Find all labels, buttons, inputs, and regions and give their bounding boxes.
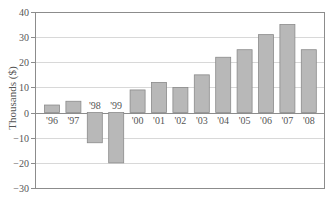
- chart-canvas: 403020100−10−20−30'96'97'98'99'00'01'02'…: [0, 0, 329, 198]
- x-category-label: '98: [89, 100, 101, 111]
- y-tick-label: −30: [13, 183, 29, 194]
- bar: [152, 82, 167, 112]
- x-category-label: '03: [196, 115, 208, 126]
- x-category-label: '07: [281, 115, 293, 126]
- y-tick-label: 0: [24, 108, 29, 119]
- x-category-label: '00: [132, 115, 144, 126]
- x-category-label: '97: [67, 115, 79, 126]
- x-category-label: '04: [217, 115, 229, 126]
- bar: [237, 50, 252, 113]
- bar: [130, 90, 145, 113]
- y-tick-label: 10: [19, 82, 29, 93]
- x-category-label: '99: [110, 100, 122, 111]
- y-tick-label: 40: [19, 7, 29, 18]
- bar: [45, 105, 60, 113]
- x-category-label: '02: [174, 115, 186, 126]
- x-category-label: '05: [239, 115, 251, 126]
- x-category-label: '06: [260, 115, 272, 126]
- bar: [66, 101, 81, 112]
- bar: [301, 50, 316, 113]
- x-category-label: '01: [153, 115, 165, 126]
- x-category-label: '08: [303, 115, 315, 126]
- bar: [216, 57, 231, 112]
- y-tick-label: −20: [13, 158, 29, 169]
- y-axis-label: Thousands ($): [6, 48, 18, 148]
- bar: [173, 87, 188, 112]
- y-tick-label: 20: [19, 57, 29, 68]
- x-category-label: '96: [46, 115, 58, 126]
- y-tick-label: 30: [19, 32, 29, 43]
- bar: [194, 75, 209, 113]
- bar: [259, 35, 274, 113]
- bar: [87, 113, 102, 143]
- bar: [109, 113, 124, 163]
- bar: [280, 25, 295, 113]
